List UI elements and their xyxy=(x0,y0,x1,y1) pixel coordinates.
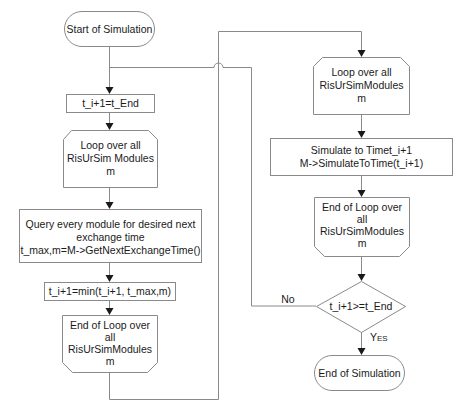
arrow-head xyxy=(358,274,366,281)
flowchart: Start of Simulation t_i+1=t_End Loop ove… xyxy=(0,0,464,417)
node-set-tend: t_i+1=t_End xyxy=(67,95,155,113)
arrow-head xyxy=(358,348,366,355)
node-loop2-end-line2: all xyxy=(357,213,368,225)
node-decision: t_i+1>=t_End xyxy=(317,282,406,333)
node-loop1-start-line1: Loop over all xyxy=(80,139,140,151)
arrow-head xyxy=(106,87,114,94)
node-loop1-end-line3: RisUrSimModules xyxy=(68,343,152,355)
node-loop2-start-line1: Loop over all xyxy=(331,66,391,78)
arrow-head xyxy=(106,275,114,282)
node-loop1-start: Loop over all RisUrSim Modules m xyxy=(64,131,158,188)
node-min-label: t_i+1=min(t_i+1, t_max,m) xyxy=(49,285,171,297)
node-simulate-line1: Simulate to Timet_i+1 xyxy=(311,144,412,156)
arrow-head xyxy=(358,190,366,197)
node-loop2-start: Loop over all RisUrSimModules m xyxy=(314,58,410,115)
node-end: End of Simulation xyxy=(315,356,405,391)
node-loop1-start-line3: m xyxy=(106,165,115,177)
node-end-label: End of Simulation xyxy=(318,367,400,379)
edge-label-yes-initial: Y xyxy=(370,331,377,343)
node-min: t_i+1=min(t_i+1, t_max,m) xyxy=(45,283,176,301)
arrow-head xyxy=(106,202,114,209)
arrow-head xyxy=(106,308,114,315)
node-query-line3: t_max,m=M->GetNextExchangeTime() xyxy=(21,244,201,256)
arrow-head xyxy=(358,50,366,57)
node-query-line2: exchange time xyxy=(76,231,144,243)
node-loop2-end-line3: RisUrSimModules xyxy=(320,225,404,237)
node-loop2-end-line4: m xyxy=(358,237,367,249)
arrow-head xyxy=(358,131,366,138)
node-decision-label: t_i+1>=t_End xyxy=(330,300,393,312)
node-simulate: Simulate to Timet_i+1 M->SimulateToTime(… xyxy=(271,139,453,176)
node-loop1-start-line2: RisUrSim Modules xyxy=(67,152,154,164)
node-query-line1: Query every module for desired next xyxy=(26,218,196,230)
edge-label-yes: YES xyxy=(370,331,388,343)
node-loop2-start-line2: RisUrSimModules xyxy=(319,79,403,91)
node-loop2-end: End of Loop over all RisUrSimModules m xyxy=(315,198,410,257)
edge-label-yes-rest: ES xyxy=(377,334,388,343)
edge-label-no: No xyxy=(281,293,295,305)
node-loop1-end-line1: End of Loop over xyxy=(70,319,150,331)
arrow-head xyxy=(106,123,114,130)
node-loop2-end-line1: End of Loop over xyxy=(322,201,402,213)
node-query: Query every module for desired next exch… xyxy=(20,210,202,263)
node-loop1-end: End of Loop over all RisUrSimModules m xyxy=(63,316,158,373)
node-simulate-line2: M->SimulateToTime(t_i+1) xyxy=(300,157,423,169)
node-loop1-end-line4: m xyxy=(106,355,115,367)
node-start-label: Start of Simulation xyxy=(67,23,153,35)
node-set-tend-label: t_i+1=t_End xyxy=(82,97,139,109)
node-loop2-start-line3: m xyxy=(357,92,366,104)
node-loop1-end-line2: all xyxy=(105,331,116,343)
node-start: Start of Simulation xyxy=(65,12,155,47)
